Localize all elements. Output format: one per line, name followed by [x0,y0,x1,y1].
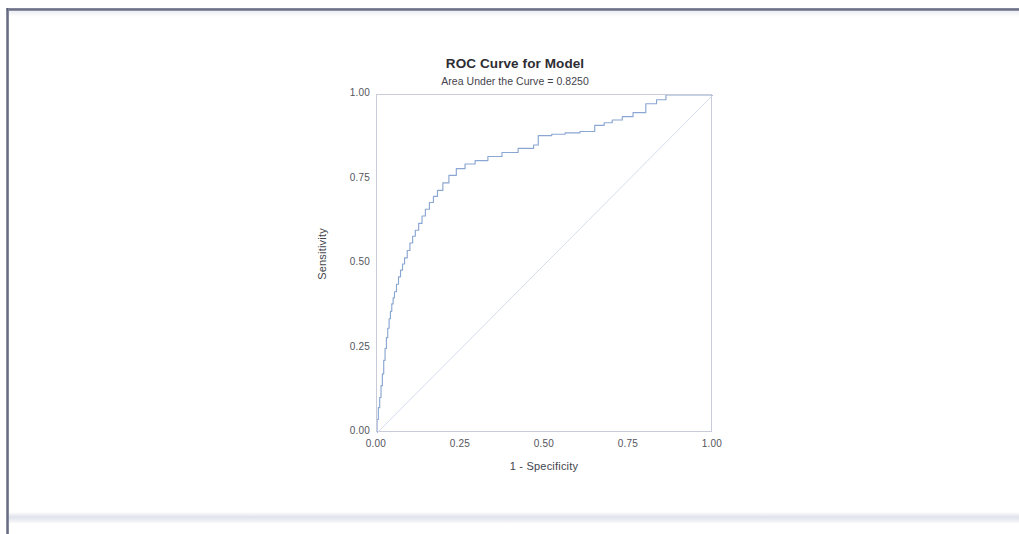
x-axis-tick-labels: 0.000.250.500.751.00 [376,438,712,454]
x-tick-label: 0.00 [346,438,406,449]
plot-area [376,94,712,432]
x-tick-label: 1.00 [682,438,742,449]
roc-curve-figure: ROC Curve for Model Area Under the Curve… [300,48,730,488]
y-tick-label: 0.75 [324,172,370,183]
roc-plot-svg [377,95,713,433]
document-frame-left-edge [6,8,9,534]
scan-artifact-band-bottom [9,512,1019,523]
y-axis-tick-labels: 0.000.250.500.751.00 [318,94,370,432]
scan-artifact-band-top [9,11,1019,17]
y-tick-label: 1.00 [324,87,370,98]
reference-line-group [377,95,713,433]
chance-reference-line [377,95,713,433]
y-tick-label: 0.00 [324,425,370,436]
y-tick-label: 0.25 [324,341,370,352]
scanned-page-sheet: ROC Curve for Model Area Under the Curve… [0,0,1019,534]
document-frame-top-edge [6,8,1019,11]
y-tick-label: 0.50 [324,256,370,267]
x-tick-label: 0.25 [430,438,490,449]
chart-title: ROC Curve for Model [300,56,730,71]
x-tick-label: 0.50 [514,438,574,449]
x-axis-label: 1 - Specificity [376,460,712,472]
x-tick-label: 0.75 [598,438,658,449]
chart-subtitle-auc: Area Under the Curve = 0.8250 [300,75,730,87]
